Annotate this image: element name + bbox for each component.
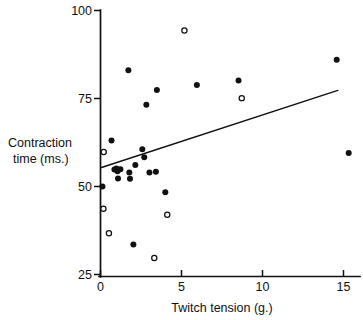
data-point [162, 189, 168, 195]
data-point [106, 231, 111, 236]
data-point [126, 169, 132, 175]
data-point [127, 176, 133, 182]
x-tick-label-0: 0 [97, 280, 104, 294]
data-point [141, 154, 147, 160]
y-tick-label-75: 75 [78, 92, 92, 106]
data-point [143, 102, 149, 108]
data-point [152, 255, 157, 260]
data-point [139, 146, 145, 152]
x-axis-ticks [101, 270, 344, 277]
plot-canvas: 100 75 50 25 0 5 10 15 Contraction time … [0, 0, 363, 320]
data-point [101, 206, 106, 211]
data-point [165, 212, 170, 217]
data-point [346, 150, 352, 156]
data-point [334, 57, 340, 63]
data-point [182, 28, 187, 33]
data-point [130, 242, 136, 248]
data-point [125, 67, 131, 73]
y-axis-label-line2: time (ms.) [13, 152, 69, 166]
data-point [154, 87, 160, 93]
y-axis-label-line1: Contraction [8, 136, 72, 150]
data-point [146, 169, 152, 175]
data-point [109, 137, 115, 143]
x-tick-label-15: 15 [337, 280, 351, 294]
y-tick-label-100: 100 [71, 4, 92, 18]
data-point [194, 82, 200, 88]
x-axis-label: Twitch tension (g.) [171, 301, 272, 315]
data-point [101, 149, 106, 154]
data-points-filled [99, 57, 351, 248]
x-tick-label-10: 10 [256, 280, 270, 294]
x-tick-label-5: 5 [178, 280, 185, 294]
data-point [99, 184, 105, 190]
data-point [115, 175, 121, 181]
data-point [132, 162, 138, 168]
data-point [117, 166, 123, 172]
regression-line [101, 90, 337, 167]
y-axis-ticks [94, 11, 101, 275]
y-tick-label-25: 25 [78, 268, 92, 282]
scatter-plot-figure: 100 75 50 25 0 5 10 15 Contraction time … [0, 0, 363, 320]
data-point [236, 78, 242, 84]
data-point [153, 169, 159, 175]
data-point [239, 96, 244, 101]
y-tick-label-50: 50 [78, 180, 92, 194]
